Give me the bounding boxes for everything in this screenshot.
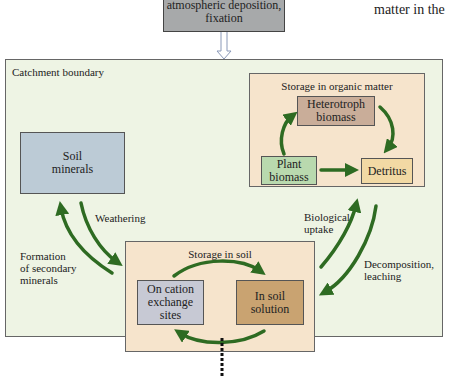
biological-uptake-arrow bbox=[321, 205, 356, 267]
heterotroph-to-detritus-arrow bbox=[380, 107, 393, 148]
arrows-layer bbox=[0, 0, 449, 378]
cation-to-solution-arrow bbox=[174, 261, 260, 276]
input-hollow-arrow bbox=[217, 32, 231, 59]
plant-to-heterotroph-arrow bbox=[281, 116, 292, 154]
